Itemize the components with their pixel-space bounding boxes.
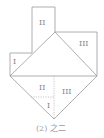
label-lower-center: I (47, 101, 50, 110)
label-left-step: I (13, 57, 16, 66)
label-lower-left: II (39, 83, 45, 92)
lower-right-side (54, 76, 97, 119)
label-lower-right: III (62, 87, 71, 96)
geometry-figure: II III I II III I (2) 之二 (0, 0, 104, 138)
label-right-rect: III (79, 39, 88, 48)
label-top-rect: II (39, 18, 45, 27)
triangle-right-side (55, 32, 97, 76)
figure-caption: (2) 之二 (36, 123, 66, 133)
triangle-left-side (10, 32, 55, 76)
lower-left-side (10, 76, 54, 119)
